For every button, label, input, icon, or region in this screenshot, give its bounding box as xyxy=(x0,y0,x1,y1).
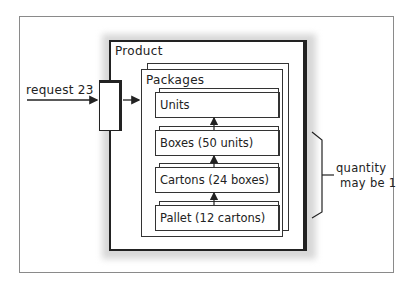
quantity-note-line1: quantity xyxy=(336,161,386,175)
quantity-note-line2: may be 1 xyxy=(340,176,396,190)
quantity-bracket xyxy=(312,132,334,218)
connector-layer xyxy=(0,0,409,289)
